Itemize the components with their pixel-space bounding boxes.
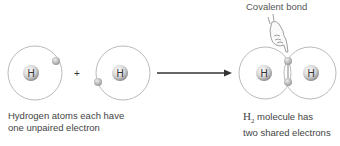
h2-formula: H2 — [243, 110, 254, 122]
electron-icon — [52, 57, 60, 65]
pointing-hand-icon — [268, 14, 288, 52]
atom-symbol: H — [116, 68, 123, 79]
hydrogen-atom-left: H — [8, 46, 62, 100]
atom-symbol: H — [260, 68, 267, 79]
electron-icon — [94, 78, 102, 86]
right-caption: H2 molecule has two shared electrons — [243, 110, 331, 139]
electron-icon — [284, 78, 292, 86]
right-caption-line1: H2 molecule has — [243, 110, 331, 127]
left-caption: Hydrogen atoms each have one unpaired el… — [8, 110, 124, 134]
reaction-arrow-icon — [157, 70, 232, 77]
electron-icon — [284, 57, 292, 65]
hydrogen-molecule: H H — [239, 47, 336, 99]
atom-symbol: H — [27, 68, 34, 79]
atom-symbol: H — [307, 68, 314, 79]
formula-base: H — [243, 110, 251, 122]
left-caption-line2: one unpaired electron — [8, 122, 124, 134]
hydrogen-atom-right: H — [94, 46, 150, 100]
right-caption-line2: two shared electrons — [243, 127, 331, 139]
plus-sign: + — [74, 68, 80, 79]
left-caption-line1: Hydrogen atoms each have — [8, 110, 124, 122]
right-caption-line1-text: molecule has — [254, 111, 313, 122]
